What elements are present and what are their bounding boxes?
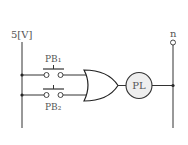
pb2-label: PB₂ xyxy=(45,102,62,112)
circuit-diagram: 5[V] PB₁ PB₂ PL n xyxy=(0,0,188,145)
neutral-terminal xyxy=(171,40,176,45)
switch-pb1: PB₁ xyxy=(22,54,86,78)
neutral-label: n xyxy=(170,28,177,39)
lamp-label: PL xyxy=(132,80,146,91)
or-gate xyxy=(84,70,118,101)
pilot-lamp: PL xyxy=(126,73,152,99)
supply-label: 5[V] xyxy=(11,29,32,40)
pb1-label: PB₁ xyxy=(45,54,61,64)
switch-pb2: PB₂ xyxy=(22,85,86,112)
